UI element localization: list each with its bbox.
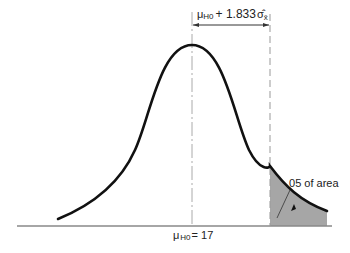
- mean-equals-value: = 17: [192, 229, 214, 241]
- normal-curve-diagram: μH0+ 1.833σ̂x̄ .05 of area μH0= 17: [0, 0, 350, 253]
- bracket-sigma-subscript: x̄: [264, 13, 268, 22]
- mean-mu-symbol: μ: [173, 229, 179, 241]
- diagram-canvas: μH0+ 1.833σ̂x̄ .05 of area μH0= 17: [0, 0, 350, 253]
- bracket-mu-subscript: H0: [203, 12, 214, 21]
- bracket-expression: + 1.833: [216, 7, 257, 21]
- bracket-label: μH0+ 1.833σ̂x̄: [197, 7, 268, 22]
- mean-mu-subscript: H0: [180, 233, 191, 242]
- bracket-arrow-right-icon: [263, 23, 269, 27]
- mean-label: μH0= 17: [173, 229, 213, 242]
- tail-area-label: .05 of area: [286, 177, 339, 189]
- bracket-arrow-left-icon: [193, 23, 199, 27]
